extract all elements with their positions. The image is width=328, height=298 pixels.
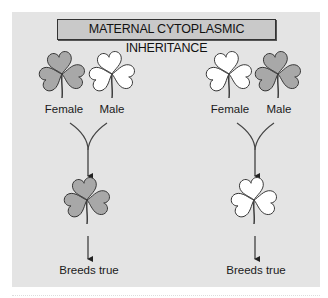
cross-line-right	[88, 123, 107, 150]
divider	[12, 295, 320, 296]
left-result-label: Breeds true	[59, 264, 118, 276]
offspring-clover-gray-icon	[62, 176, 110, 224]
right-cross	[204, 50, 301, 259]
inheritance-diagram	[0, 0, 328, 298]
male-parent-clover-white-icon	[87, 50, 135, 98]
offspring-clover-white-icon	[229, 176, 277, 224]
right-female-label: Female	[211, 103, 249, 115]
cross-line-left	[70, 123, 88, 150]
left-male-label: Male	[100, 103, 125, 115]
female-parent-clover-white-icon	[204, 50, 252, 98]
left-female-label: Female	[45, 103, 83, 115]
male-parent-clover-gray-icon	[253, 50, 301, 98]
female-parent-clover-gray-icon	[37, 50, 85, 98]
cross-line-right	[255, 123, 274, 150]
left-cross	[37, 50, 135, 259]
right-result-label: Breeds true	[226, 264, 285, 276]
right-male-label: Male	[267, 103, 292, 115]
cross-line-left	[237, 123, 255, 150]
